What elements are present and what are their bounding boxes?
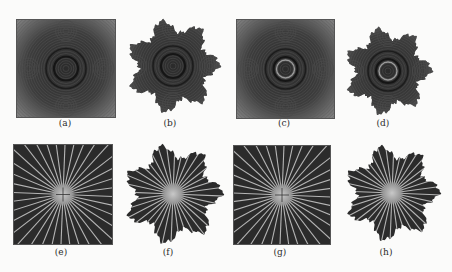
panel-b-image — [124, 14, 222, 118]
panel-h — [340, 143, 444, 243]
caption-b: (b) — [150, 118, 190, 128]
panel-b — [124, 14, 222, 118]
panel-h-content — [340, 143, 444, 243]
panel-c-content — [236, 19, 335, 119]
caption-e: (e) — [41, 247, 81, 257]
panel-a-image — [16, 19, 116, 118]
caption-d: (d) — [363, 118, 403, 128]
panel-g-image — [233, 145, 331, 245]
panel-f — [121, 142, 225, 246]
panel-a — [16, 19, 116, 118]
panel-e-content — [13, 144, 113, 245]
panel-e-image — [13, 144, 113, 245]
panel-b-content — [124, 14, 222, 118]
caption-a: (a) — [45, 118, 85, 128]
panel-e — [13, 144, 113, 245]
caption-h: (h) — [366, 247, 406, 257]
panel-d-content — [342, 25, 434, 117]
panel-c-image — [236, 19, 335, 119]
center-glow — [161, 182, 185, 206]
panel-d — [342, 25, 434, 117]
panel-h-image — [340, 143, 444, 243]
panel-c — [236, 19, 335, 119]
panel-f-content — [121, 142, 225, 246]
center-glow — [380, 181, 404, 205]
panel-f-image — [121, 142, 225, 246]
panel-g-content — [233, 145, 331, 245]
caption-c: (c) — [264, 118, 304, 128]
panel-g — [233, 145, 331, 245]
caption-g: (g) — [260, 247, 300, 257]
panel-d-image — [342, 25, 434, 117]
caption-f: (f) — [148, 247, 188, 257]
panel-a-content — [16, 19, 116, 118]
